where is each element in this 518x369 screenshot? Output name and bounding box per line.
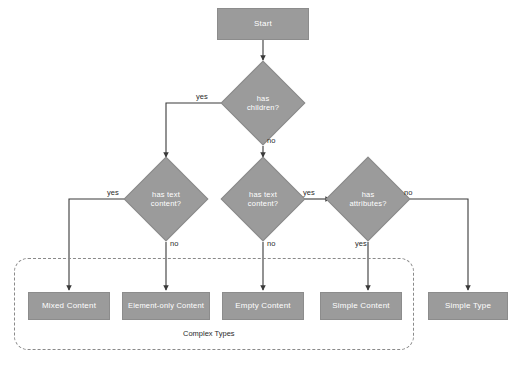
edge-label-has-children-yes: yes <box>196 92 208 101</box>
node-start[interactable]: Start <box>217 8 309 40</box>
flowchart-canvas: Complex Types Start has children? has te… <box>0 0 518 369</box>
node-has-children-line1: has <box>257 94 270 103</box>
node-has-children-line2: children? <box>247 103 279 112</box>
edge-label-has-attributes-no: no <box>404 188 412 197</box>
edge-label-left-text-no: no <box>170 239 178 248</box>
node-has-children[interactable]: has children? <box>233 73 293 133</box>
node-has-attributes[interactable]: has attributes? <box>338 169 398 229</box>
complex-types-group-label: Complex Types <box>183 329 235 338</box>
node-has-text-content-right-line2: content? <box>248 199 278 208</box>
node-has-text-content-right-line1: has text <box>249 190 277 199</box>
node-simple-content[interactable]: Simple Content <box>320 292 402 320</box>
edge-label-right-text-yes: yes <box>303 188 315 197</box>
node-empty-content[interactable]: Empty Content <box>222 292 304 320</box>
node-element-only-content[interactable]: Element-only Content <box>122 292 210 320</box>
node-mixed-content[interactable]: Mixed Content <box>28 292 110 320</box>
node-has-text-content-left-line2: content? <box>151 199 181 208</box>
node-has-text-content-right-label: has text content? <box>233 169 293 229</box>
node-has-text-content-left-line1: has text <box>152 190 180 199</box>
edge-label-has-children-no: no <box>267 136 275 145</box>
node-has-text-content-right[interactable]: has text content? <box>233 169 293 229</box>
node-has-text-content-left-label: has text content? <box>136 169 196 229</box>
node-has-children-label: has children? <box>233 73 293 133</box>
node-has-attributes-label: has attributes? <box>338 169 398 229</box>
node-has-attributes-line2: attributes? <box>349 199 386 208</box>
edge-label-right-text-no: no <box>267 239 275 248</box>
node-has-attributes-line1: has <box>362 190 375 199</box>
node-has-text-content-left[interactable]: has text content? <box>136 169 196 229</box>
edge-label-has-attributes-yes: yes <box>355 239 367 248</box>
node-simple-type[interactable]: Simple Type <box>428 292 508 320</box>
edge-label-left-text-yes: yes <box>107 188 119 197</box>
